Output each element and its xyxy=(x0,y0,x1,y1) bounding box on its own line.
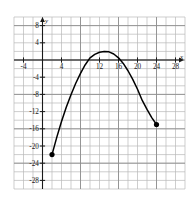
y-tick-label: -20 xyxy=(29,143,39,151)
y-tick-label: -16 xyxy=(29,125,39,133)
x-tick-label: 28 xyxy=(172,63,180,71)
y-tick-label: 4 xyxy=(35,39,39,47)
x-tick-label: 24 xyxy=(153,63,161,71)
y-tick-label: -24 xyxy=(29,160,39,168)
x-tick-label: 16 xyxy=(115,63,123,71)
x-tick-label: 4 xyxy=(60,63,64,71)
graph-figure: yx-44121620242884-4-8-12-16-20-24-28 xyxy=(0,0,194,204)
x-tick-label: -4 xyxy=(21,63,27,71)
x-tick-label: 20 xyxy=(134,63,142,71)
y-tick-label: -8 xyxy=(33,91,39,99)
x-tick-label: 12 xyxy=(96,63,104,71)
y-tick-label: -28 xyxy=(29,177,39,185)
curve-endpoint-marker xyxy=(154,122,159,127)
coordinate-plane: yx-44121620242884-4-8-12-16-20-24-28 xyxy=(0,0,194,204)
y-tick-label: -4 xyxy=(33,74,39,82)
y-tick-label: -12 xyxy=(29,108,39,116)
curve-endpoint-marker xyxy=(49,152,54,157)
y-tick-label: 8 xyxy=(35,22,39,30)
